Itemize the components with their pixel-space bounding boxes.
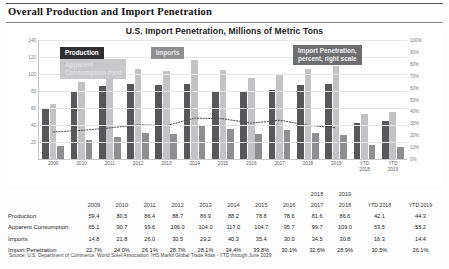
x-axis-tick: 2016 [246,161,256,167]
table-cell: 88.2 [219,210,247,222]
table-header-year: 2015 [247,199,275,210]
table-cell: 106.0 [164,222,192,234]
x-axis-tick: 2010 [76,161,86,167]
legend-penetration-line2: percent, right scale [298,55,357,62]
table-cell-ytd: 53.5 [359,222,400,234]
legend-consumption-line2: Consumption mmt [65,69,121,76]
table-row-label: Production [8,210,80,222]
table-cell: 30.1% [275,245,303,257]
gridline [39,108,407,109]
table-cell: 78.6 [275,210,303,222]
y2-axis-tick: 60% [410,85,419,90]
x-axis-tick: 2011 [105,161,115,167]
y2-axis-tick: 80% [410,61,419,66]
table-row-label: Imports [8,233,80,245]
table-header-year: 2016 [275,199,303,210]
y2-axis-tick: 40% [410,109,419,114]
table-header-year: 2011 [136,199,164,210]
table-row-label: Apparent Consumption [8,222,80,234]
table-cell: 35.4 [247,233,275,245]
table-cell: 59.4 [80,210,108,222]
table-header-year: 2017 [303,199,331,210]
gridline [39,91,407,92]
table-cell: 78.8 [247,210,275,222]
x-axis-tick: 2013 [161,161,171,167]
y2-axis-tick: 70% [410,73,419,78]
table-row: Apparent Consumption65.190.799.6106.0104… [8,222,441,234]
table-cell: 30.8 [331,233,359,245]
legend-consumption: Apparent Consumption mmt [60,59,126,79]
table-header-ytd: YTD 2018 [359,199,400,210]
gridline [39,142,407,143]
header-top-ytd-spacer-1 [359,188,400,199]
table-cell: 86.4 [136,210,164,222]
x-axis-tick: 2018 [303,161,313,167]
table-cell: 40.3 [219,233,247,245]
table-cell: 32.6% [303,245,331,257]
x-axis-tick: 2015 [218,161,228,167]
table-cell: 86.6 [331,210,359,222]
table-cell-ytd: 44.3 [400,210,441,222]
x-axis-tick: 2019 [331,161,341,167]
table-cell: 104.0 [192,222,220,234]
y-axis-tick: 40 [31,123,36,128]
y-axis-tick: 20 [31,140,36,145]
table-cell: 14.8 [80,233,108,245]
header-divider-top [6,3,443,4]
table-header-year: 2014 [219,199,247,210]
table-cell: 90.7 [108,222,136,234]
table-corner-cell [8,199,80,210]
table-row: Production59.480.586.488.786.988.278.878… [8,210,441,222]
table-cell: 81.6 [303,210,331,222]
table-cell: 109.0 [331,222,359,234]
table-cell: 26.0 [136,233,164,245]
legend-production: Production [60,47,104,59]
table-header-row-top: 2018 2019 [8,188,441,199]
data-table: 2018 2019 200920102011201220132014201520… [8,188,441,256]
x-axis-tick: YTD2019 [388,161,398,173]
y2-axis-tick: 100% [410,38,422,43]
y-axis-tick: 60 [31,106,36,111]
table-cell-ytd: 16.3 [359,233,400,245]
table-cell-ytd: 14.4 [400,233,441,245]
table-cell: 30.5 [164,233,192,245]
table-cell: 65.1 [80,222,108,234]
y2-axis-tick: 90% [410,49,419,54]
legend-imports: Imports [151,47,184,59]
table-cell-ytd: 55.2 [400,222,441,234]
table-cell-ytd: 26.1% [400,245,441,257]
table-cell-ytd: 42.1 [359,210,400,222]
table-cell: 99.6 [136,222,164,234]
y2-axis-tick: 20% [410,133,419,138]
table-head: 2018 2019 200920102011201220132014201520… [8,188,441,210]
legend-consumption-line1: Apparent [65,61,93,68]
chart-container: U.S. Import Penetration, Millions of Met… [8,26,441,186]
table-header-year: 2012 [164,199,192,210]
table-cell: 117.0 [219,222,247,234]
y2-axis-tick: 30% [410,121,419,126]
y-axis-tick: 80 [31,89,36,94]
table-header-ytd: YTD 2019 [400,199,441,210]
y-axis-tick: 120 [28,55,36,60]
header-divider-bottom [6,22,443,23]
table-cell: 29.2 [192,233,220,245]
x-axis-tick: 2017 [274,161,284,167]
table-cell: 95.7 [275,222,303,234]
table-header-year: 2018 [331,199,359,210]
source-note: Source: U.S. Department of Commerce, Wor… [9,253,271,258]
gridline [39,125,407,126]
table-row: Imports14.821.826.030.529.240.335.430.03… [8,233,441,245]
table-cell: 28.9% [331,245,359,257]
header-top-2019: 2019 [331,188,359,199]
y2-axis-tick: 10% [410,145,419,150]
x-axis-tick: 2009 [48,161,58,167]
y-axis-tick: 100 [28,72,36,77]
x-axis-tick: 2012 [133,161,143,167]
page-root: Overall Production and Import Penetratio… [0,0,449,269]
chart-title: U.S. Import Penetration, Millions of Met… [8,26,441,36]
table-cell: 86.9 [192,210,220,222]
table-header-row-years: 2009201020112012201320142015201620172018… [8,199,441,210]
page-title: Overall Production and Import Penetratio… [8,6,212,17]
header-top-ytd-spacer-2 [400,188,441,199]
table-cell: 104.7 [247,222,275,234]
